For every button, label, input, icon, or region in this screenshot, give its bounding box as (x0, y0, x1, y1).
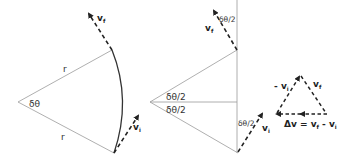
lower-radius-line (150, 102, 238, 153)
delta-v-equation: Δv = vf - vi (284, 119, 337, 130)
half-angle-lower-label: δθ/2 (166, 105, 186, 115)
radius-bottom-line (18, 102, 114, 153)
neg-initial-velocity-label: - vi (274, 81, 289, 92)
half-angle-upper-label: δθ/2 (166, 92, 186, 102)
left-sector: r r δθ vf vi (18, 13, 141, 153)
half-angle-bottom-vector-label: δθ/2 (238, 119, 255, 128)
circular-arc (112, 50, 123, 153)
initial-velocity-label-mid: vi (262, 123, 270, 134)
final-velocity-label-triangle: vf (313, 79, 322, 90)
initial-velocity-label: vi (133, 122, 141, 133)
angle-label: δθ (29, 99, 41, 109)
half-angle-geometry: δθ/2 δθ/2 δθ/2 δθ/2 vf vi (150, 0, 270, 153)
final-velocity-label: vf (97, 13, 106, 24)
radius-top-line (18, 50, 112, 102)
half-angle-top-vector-label: δθ/2 (219, 15, 236, 24)
radius-label-top: r (63, 64, 67, 74)
final-velocity-label-mid: vf (205, 23, 214, 34)
vector-triangle: - vi vf Δv = vf - vi (274, 76, 337, 130)
velocity-change-diagram: r r δθ vf vi δθ/2 δθ/2 δθ/2 δθ/2 vf vi -… (0, 0, 342, 163)
upper-radius-line (150, 50, 237, 102)
radius-label-bottom: r (61, 132, 65, 142)
